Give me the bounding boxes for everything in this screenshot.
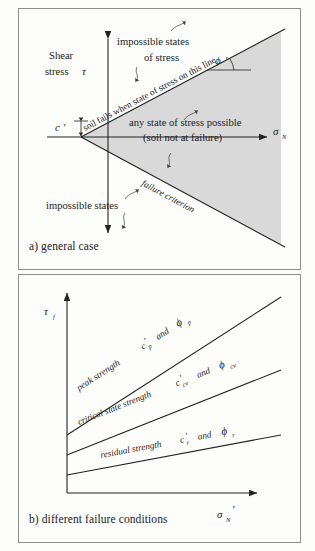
impossible-states-upper-line1: impossible states [117, 36, 189, 47]
leader-upper-2 [136, 67, 137, 81]
peak-strength-phi: ϕ [173, 315, 185, 328]
critical-state-and: and [195, 365, 212, 380]
panel-a-drawing: Shear stress τ impossible states of stre… [19, 9, 302, 271]
leader-lower-2 [123, 213, 125, 228]
leader-lower-1 [125, 190, 138, 199]
critical-state-label-group: critical state strength c ′ cv and ϕ cv [75, 353, 237, 430]
x-axis-symbol: σ [273, 125, 279, 137]
panel-general-case: Shear stress τ impossible states of stre… [18, 8, 301, 270]
panel-failure-conditions: peak strength c ′ p and ϕ p critical sta… [18, 274, 301, 543]
residual-strength-line [67, 435, 281, 475]
panel-b-caption: b) different failure conditions [29, 513, 168, 525]
y-axis-label-line2: stress [45, 66, 69, 77]
critical-state-phi: ϕ [217, 358, 227, 371]
y-axis-subscript-b: f [53, 313, 56, 320]
peak-strength-text: peak strength [74, 357, 122, 393]
critical-state-c-subscript: cv [181, 379, 189, 388]
x-axis-subscript: N [281, 133, 287, 140]
x-axis-symbol-b: σ [217, 508, 223, 520]
residual-strength-c: c [179, 434, 185, 445]
cohesion-symbol: c [55, 121, 60, 133]
residual-strength-phi: ϕ [220, 424, 228, 437]
y-axis-symbol: τ [82, 65, 87, 77]
panel-a-caption: a) general case [29, 240, 99, 252]
possible-states-line1: any state of stress possible [129, 117, 242, 128]
residual-strength-text: residual strength [100, 439, 163, 460]
y-axis-label-line1: Shear [49, 50, 74, 61]
x-axis-prime-b: ′ [232, 503, 235, 515]
residual-strength-phi-subscript: r [231, 431, 235, 438]
figure-page: Shear stress τ impossible states of stre… [0, 0, 315, 551]
sigma-n-prime-label-group: σ N ′ [217, 503, 235, 523]
y-axis-label-line2-group: stress τ [45, 65, 87, 77]
peak-strength-and: and [154, 326, 171, 342]
panel-b-drawing: peak strength c ′ p and ϕ p critical sta… [19, 275, 302, 544]
residual-strength-c-subscript: r [186, 438, 190, 445]
cohesion-label-group: c ′ [55, 121, 66, 133]
critical-state-phi-subscript: cv [229, 361, 237, 370]
possible-states-line2: (soil not at failure) [143, 132, 223, 144]
impossible-states-upper-line2: of stress [144, 52, 179, 63]
y-axis-symbol-b: τ [44, 305, 49, 317]
peak-strength-phi-subscript: p [185, 318, 193, 327]
x-axis-subscript-b: N [225, 516, 231, 523]
residual-strength-and: and [197, 429, 213, 441]
leader-upper-1 [171, 22, 185, 31]
tau-f-label-group: τ f [44, 305, 56, 320]
friction-angle-symbol: ϕ [215, 54, 221, 66]
impossible-states-lower: impossible states [46, 200, 118, 211]
cohesion-prime: ′ [63, 121, 66, 133]
critical-state-text: critical state strength [76, 389, 153, 427]
